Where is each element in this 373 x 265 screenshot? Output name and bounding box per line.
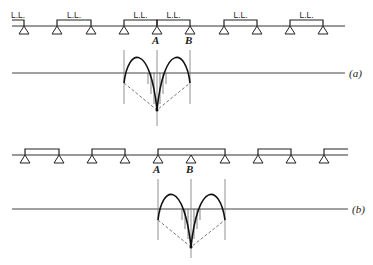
- diagram-a: L.L.L.L.L.L.L.L.L.L.L.L. A B (a): [11, 10, 362, 126]
- live-load-span: [57, 20, 91, 26]
- influence-line-a: [12, 50, 345, 126]
- live-load-span: [290, 20, 323, 26]
- live-load-label: L.L.: [299, 10, 313, 20]
- live-load-span: [224, 20, 257, 26]
- point-b-label: B: [185, 163, 193, 175]
- point-a-label: A: [152, 163, 160, 175]
- pin-support-icon: [20, 155, 30, 163]
- pin-support-icon: [319, 155, 329, 163]
- pin-support-icon: [252, 26, 262, 34]
- live-load-span: [258, 149, 291, 155]
- pin-support-icon: [86, 26, 96, 34]
- pin-support-icon: [153, 155, 163, 163]
- live-load-span: [157, 20, 190, 26]
- pin-support-icon: [120, 155, 130, 163]
- pin-support-icon: [119, 26, 129, 34]
- live-load-span: [158, 149, 225, 155]
- point-b-label: B: [184, 34, 192, 46]
- live-load-label: L.L.: [11, 10, 25, 20]
- live-loads-b: [25, 149, 348, 155]
- live-load-span: [92, 149, 125, 155]
- live-load-label: L.L.: [233, 10, 247, 20]
- live-load-span: [324, 149, 348, 155]
- live-load-label: L.L.: [166, 10, 180, 20]
- pin-support-icon: [219, 26, 229, 34]
- pin-support-icon: [185, 26, 195, 34]
- live-load-span: [124, 20, 157, 26]
- diagram-b: A B (b): [12, 149, 365, 258]
- pin-support-icon: [286, 155, 296, 163]
- pin-support-icon: [253, 155, 263, 163]
- pin-support-icon: [285, 26, 295, 34]
- live-loads-a: L.L.L.L.L.L.L.L.L.L.L.L.: [11, 10, 323, 26]
- pin-support-icon: [52, 26, 62, 34]
- pin-support-icon: [152, 26, 162, 34]
- pin-support-icon: [19, 26, 29, 34]
- pin-support-icon: [54, 155, 64, 163]
- point-a-label: A: [151, 34, 159, 46]
- live-load-span: [25, 149, 59, 155]
- pin-support-icon: [318, 26, 328, 34]
- pin-support-icon: [186, 155, 196, 163]
- influence-curve: [158, 194, 225, 247]
- supports-a: [19, 26, 328, 34]
- caption-a: (a): [349, 67, 362, 80]
- pin-support-icon: [220, 155, 230, 163]
- live-load-span: [12, 20, 24, 26]
- live-load-label: L.L.: [67, 10, 81, 20]
- live-load-label: L.L.: [133, 10, 147, 20]
- caption-b: (b): [352, 203, 365, 216]
- supports-b: [20, 155, 329, 163]
- influence-line-b: [12, 179, 348, 258]
- pin-support-icon: [87, 155, 97, 163]
- influence-line-diagram: L.L.L.L.L.L.L.L.L.L.L.L. A B (a): [0, 0, 373, 265]
